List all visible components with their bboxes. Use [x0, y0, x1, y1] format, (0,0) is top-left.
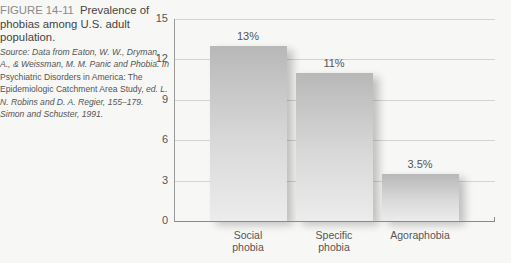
caption-title: FIGURE 14-11 Prevalence of phobias among… [0, 4, 170, 45]
x-label-agoraphobia: Agoraphobia [375, 229, 465, 241]
gridline-15 [174, 19, 495, 20]
caption-source: Source: Data from Eaton, W. W., Dryman, … [0, 46, 170, 122]
source-prefix: Source: Data from Eaton, W. W., Dryman, … [0, 47, 159, 70]
y-tick-9: 9 [148, 93, 168, 105]
value-label-social: 13% [210, 30, 286, 42]
y-tick-6: 6 [148, 133, 168, 145]
x-axis-end-tick [494, 217, 495, 222]
y-tick-3: 3 [148, 174, 168, 186]
x-axis [174, 221, 495, 222]
y-tick-15: 15 [148, 12, 168, 24]
source-book: Psychiatric Disorders in America: The Ep… [0, 72, 144, 95]
x-label-line: Specific [289, 229, 379, 241]
bar-specific-phobia [296, 73, 373, 221]
bar-social-phobia [210, 46, 287, 221]
bar-agoraphobia [382, 174, 459, 221]
y-axis [174, 19, 175, 221]
x-label-line: phobia [203, 241, 293, 253]
x-label-specific: Specific phobia [289, 229, 379, 253]
x-label-line: Agoraphobia [375, 229, 465, 241]
y-tick-12: 12 [148, 52, 168, 64]
x-label-line: phobia [289, 241, 379, 253]
x-label-social: Social phobia [203, 229, 293, 253]
figure-label: FIGURE 14-11 [0, 4, 74, 16]
value-label-specific: 11% [296, 57, 372, 69]
figure-caption: FIGURE 14-11 Prevalence of phobias among… [0, 4, 170, 121]
x-label-line: Social [203, 229, 293, 241]
value-label-agoraphobia: 3.5% [382, 158, 458, 170]
y-tick-0: 0 [148, 214, 168, 226]
